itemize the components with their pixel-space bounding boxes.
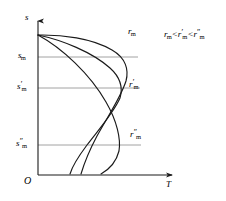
legend-subscript: m xyxy=(200,33,205,40)
legend-inequality: rm<r′m<r″m xyxy=(164,29,205,41)
curve-subscript: m xyxy=(131,30,136,37)
legend-term-3: r″m xyxy=(193,29,204,39)
tick-label-s-m-prime: s′m xyxy=(17,81,27,93)
curve-label-r-m-prime: r′m xyxy=(129,79,139,91)
curve-label-r-m-dprime: r″m xyxy=(130,129,141,141)
legend-relation-1: < xyxy=(172,29,177,39)
curve-r-m xyxy=(38,35,127,174)
curve-r-m-prime xyxy=(38,35,121,174)
y-axis-label: s xyxy=(25,13,29,22)
x-axis-label: T xyxy=(166,180,171,189)
axes xyxy=(38,21,172,175)
tick-subscript: m xyxy=(21,54,26,61)
legend-subscript: m xyxy=(182,33,187,40)
tick-label-s-m: sm xyxy=(18,50,26,62)
origin-label: O xyxy=(24,176,31,186)
legend-term-1: rm xyxy=(164,29,172,39)
gridlines xyxy=(38,57,141,145)
curve-r-m-dprime xyxy=(38,35,119,174)
tick-subscript: m xyxy=(21,85,26,92)
curve-label-r-m: rm xyxy=(128,26,136,38)
curves xyxy=(38,35,127,174)
curve-subscript: m xyxy=(136,133,141,140)
figure-container: s T O sm s′m s″m rm r′m r″m rm<r′m<r″m xyxy=(0,0,226,201)
legend-term-2: r′m xyxy=(178,29,188,39)
tick-subscript: m xyxy=(22,142,27,149)
curve-subscript: m xyxy=(133,83,138,90)
tick-label-s-m-dprime: s″m xyxy=(16,138,27,150)
